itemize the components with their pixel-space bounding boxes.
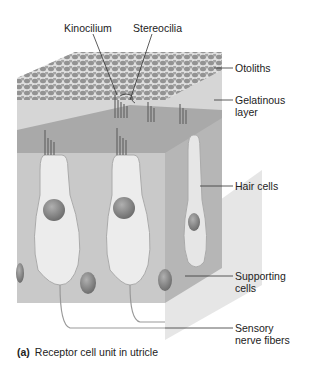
caption-letter: (a) xyxy=(17,346,30,358)
label-gelatinous-layer: Gelatinous layer xyxy=(235,94,285,118)
label-stereocilia: Stereocilia xyxy=(133,22,182,34)
label-otoliths: Otoliths xyxy=(235,62,271,74)
label-sensory-line2: nerve fibers xyxy=(235,334,290,346)
supporting-cell-nucleus xyxy=(80,272,96,294)
label-hair-cells: Hair cells xyxy=(235,180,278,192)
label-sensory-line1: Sensory xyxy=(235,322,290,334)
label-supporting-cells: Supporting cells xyxy=(235,270,286,294)
label-gelatinous-line2: layer xyxy=(235,106,285,118)
caption-text: Receptor cell unit in utricle xyxy=(35,346,158,358)
label-kinocilium: Kinocilium xyxy=(64,22,112,34)
label-gelatinous-line1: Gelatinous xyxy=(235,94,285,106)
label-sensory-nerve-fibers: Sensory nerve fibers xyxy=(235,322,290,346)
label-supporting-line2: cells xyxy=(235,282,286,294)
figure-caption: (a)Receptor cell unit in utricle xyxy=(17,346,158,358)
label-supporting-line1: Supporting xyxy=(235,270,286,282)
